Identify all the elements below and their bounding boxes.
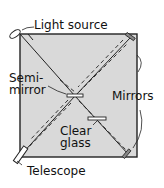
- semi-mirror-label-line2: mirror: [9, 84, 46, 96]
- telescope-label: Telescope: [27, 165, 86, 177]
- mirrors-label: Mirrors: [112, 90, 154, 102]
- clear-glass-icon: [88, 117, 106, 120]
- semi-mirror-icon: [67, 94, 83, 97]
- light-source-label: Light source: [34, 19, 108, 31]
- clear-glass-label-line2: glass: [60, 137, 91, 149]
